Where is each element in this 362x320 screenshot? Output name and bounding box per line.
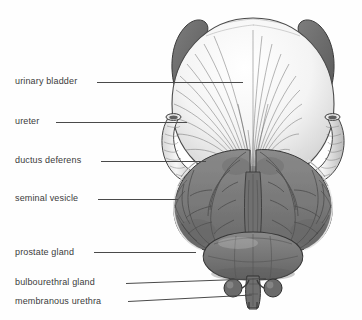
label-membranous-urethra: membranous urethra	[15, 296, 101, 306]
leader-line-seminal-vesicle	[98, 199, 178, 200]
label-prostate-gland: prostate gland	[15, 247, 74, 257]
label-bulbourethral-gland: bulbourethral gland	[15, 277, 95, 287]
label-ductus-deferens: ductus deferens	[15, 155, 81, 165]
diagram-canvas: urinary bladderureterductus deferenssemi…	[0, 0, 362, 320]
membranous-urethra	[246, 276, 261, 308]
leader-line-ductus-deferens	[101, 161, 206, 162]
label-ureter: ureter	[15, 116, 39, 126]
leader-line-urinary-bladder	[97, 82, 243, 83]
prostate-gland	[203, 232, 303, 281]
bladder-neck	[245, 172, 262, 240]
leader-line-prostate-gland	[94, 252, 196, 253]
leader-line-ureter	[56, 122, 187, 123]
urinary-bladder	[172, 18, 334, 190]
label-seminal-vesicle: seminal vesicle	[15, 193, 78, 203]
label-urinary-bladder: urinary bladder	[15, 76, 77, 86]
